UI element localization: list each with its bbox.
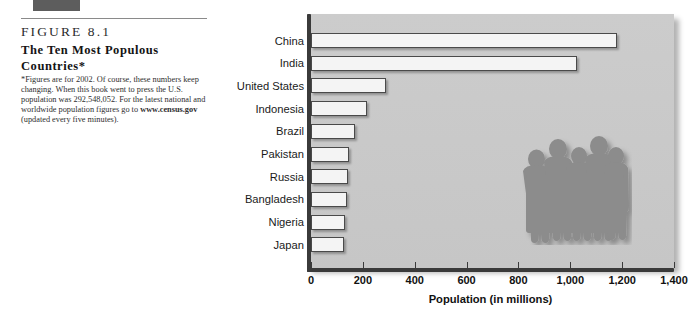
x-axis-tick [363,262,364,268]
x-axis-tick [415,262,416,268]
page-corner-tab [33,0,80,11]
x-axis-tick [622,262,623,268]
bar[interactable] [311,169,348,184]
bar-category-label: China [275,35,304,47]
bar[interactable] [311,215,345,230]
figure-number: FIGURE 8.1 [21,24,111,40]
bar[interactable] [311,192,347,207]
bar-category-label: Russia [270,171,304,183]
bar[interactable] [311,56,577,71]
bar[interactable] [311,33,617,48]
figure-title: The Ten Most Populous Countries* [21,42,221,74]
bar-category-label: United States [237,80,304,92]
bar[interactable] [311,147,349,162]
x-axis-tick [467,262,468,268]
chart-y-axis-line [307,14,311,272]
chart-x-axis-line [307,268,674,272]
x-axis-tick-label: 800 [509,274,527,286]
bar-category-label: Nigeria [269,216,304,228]
x-axis-title: Population (in millions) [307,293,674,305]
x-axis-tick [570,262,571,268]
bar[interactable] [311,124,355,139]
x-axis-tick-label: 400 [406,274,424,286]
bar[interactable] [311,101,367,116]
bar[interactable] [311,78,386,93]
bar-category-label: Indonesia [255,103,304,115]
x-axis-tick [311,262,312,268]
bar[interactable] [311,237,344,252]
x-axis-tick-label: 1,200 [608,274,636,286]
x-axis-tick-label: 0 [308,274,314,286]
x-axis-tick [518,262,519,268]
people-silhouette-icon [516,123,632,245]
x-axis-tick-label: 1,400 [660,274,688,286]
bar-category-label: India [280,57,304,69]
bar-category-label: Japan [274,239,304,251]
figure-footnote: *Figures are for 2002. Of course, these … [21,75,217,125]
bar-category-label: Pakistan [261,148,304,160]
bar-category-label: Brazil [276,125,304,137]
x-axis-tick [674,262,675,268]
bar-category-label: Bangladesh [245,193,304,205]
x-axis-tick-label: 200 [354,274,372,286]
figure-caption-column: FIGURE 8.1 The Ten Most Populous Countri… [0,0,300,321]
caption-divider-rule [21,18,207,19]
x-axis-tick-label: 600 [457,274,475,286]
figure-footnote-text-part2: (updated every five minutes). [21,115,119,124]
x-axis-tick-label: 1,000 [557,274,585,286]
census-website-link[interactable]: www.census.gov [140,105,197,114]
